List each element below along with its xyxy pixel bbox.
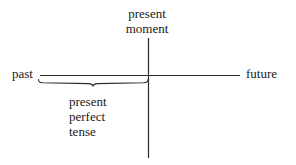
label-present-moment-line2: moment — [0, 21, 295, 36]
label-past: past — [12, 66, 33, 81]
label-present-moment: present moment — [0, 6, 295, 36]
timeline-diagram: present moment past future present perfe… — [0, 0, 296, 165]
label-present-perfect-tense-line1: present — [69, 94, 107, 109]
label-present-perfect-tense: present perfect tense — [69, 94, 107, 139]
present-perfect-brace — [39, 80, 149, 87]
label-present-perfect-tense-line2: perfect — [69, 109, 107, 124]
label-future: future — [246, 66, 277, 81]
label-present-moment-line1: present — [0, 6, 295, 21]
label-present-perfect-tense-line3: tense — [69, 124, 107, 139]
